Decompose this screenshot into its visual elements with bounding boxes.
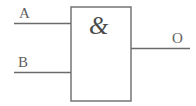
output-label-o: O: [172, 31, 183, 46]
and-gate-symbol: &: [89, 13, 108, 38]
logic-gate-diagram: & A B O: [0, 0, 196, 106]
input-label-b: B: [18, 55, 28, 70]
input-label-a: A: [19, 6, 30, 21]
